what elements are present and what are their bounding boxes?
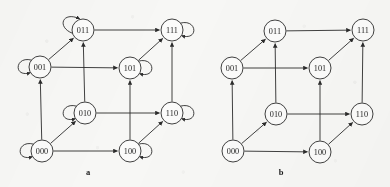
node-label-010: 010: [79, 109, 92, 118]
node-110[interactable]: 110: [351, 103, 373, 125]
node-label-111: 111: [166, 26, 178, 35]
node-011[interactable]: 011: [72, 19, 94, 41]
node-001[interactable]: 001: [221, 57, 243, 79]
node-label-111: 111: [357, 26, 369, 35]
node-label-011: 011: [77, 26, 89, 35]
edge-110-to-111: [362, 43, 363, 103]
node-label-001: 001: [226, 64, 239, 73]
node-000[interactable]: 000: [222, 140, 244, 162]
edge-001-to-011: [241, 39, 266, 60]
node-label-101: 101: [314, 64, 327, 73]
node-010[interactable]: 010: [74, 102, 96, 124]
node-label-000: 000: [36, 147, 49, 156]
node-label-100: 100: [124, 147, 137, 156]
node-110[interactable]: 110: [161, 102, 183, 124]
edge-000-to-010: [242, 122, 267, 143]
node-label-101: 101: [124, 64, 137, 73]
node-label-011: 011: [269, 27, 281, 36]
edge-101-to-111: [329, 38, 354, 60]
nodes-layer: 0111110011010101100001000111110011010101…: [29, 19, 374, 163]
node-000[interactable]: 000: [31, 140, 53, 162]
node-111[interactable]: 111: [161, 19, 183, 41]
node-label-000: 000: [227, 147, 240, 156]
node-111[interactable]: 111: [352, 19, 374, 41]
edge-001-to-011: [49, 38, 74, 59]
node-011[interactable]: 011: [264, 20, 286, 42]
edge-000-to-010: [51, 121, 76, 143]
panel-caption-b: b: [279, 167, 284, 177]
node-label-001: 001: [34, 63, 47, 72]
edge-001-to-101: [51, 67, 117, 68]
node-label-110: 110: [356, 110, 368, 119]
node-001[interactable]: 001: [29, 56, 51, 78]
edge-000-to-100: [244, 151, 307, 152]
edge-100-to-110: [138, 121, 162, 143]
edge-101-to-111: [138, 38, 162, 60]
node-label-110: 110: [166, 109, 178, 118]
edge-100-to-110: [328, 122, 352, 144]
node-101[interactable]: 101: [119, 57, 141, 79]
node-010[interactable]: 010: [265, 103, 287, 125]
edge-011-to-111: [286, 30, 350, 31]
edges-layer: [40, 30, 363, 152]
state-transition-figure: 0111110011010101100001000111110011010101…: [0, 0, 390, 187]
edge-010-to-011: [83, 43, 84, 102]
node-100[interactable]: 100: [119, 140, 141, 162]
edge-010-to-011: [275, 44, 276, 103]
node-100[interactable]: 100: [309, 141, 331, 163]
figure-root: 0111110011010101100001000111110011010101…: [0, 0, 390, 187]
node-label-100: 100: [314, 148, 327, 157]
panel-captions-layer: ab: [86, 167, 284, 177]
edge-000-to-001: [40, 80, 41, 140]
node-101[interactable]: 101: [309, 57, 331, 79]
edge-000-to-001: [232, 81, 233, 140]
node-label-010: 010: [270, 110, 283, 119]
panel-caption-a: a: [86, 167, 91, 177]
